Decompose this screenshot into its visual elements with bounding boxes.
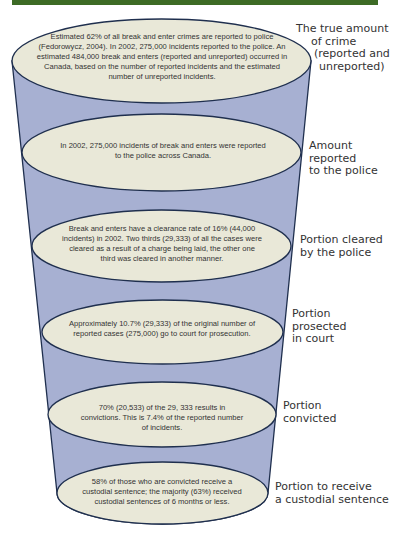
stage-3-label: Portion cleared by the police bbox=[300, 234, 383, 259]
stage-3-text: Break and enters have a clearance rate o… bbox=[62, 224, 262, 264]
stage-1-text: Estimated 62% of all break and enter cri… bbox=[34, 32, 290, 82]
stage-1-label: The true amount of crime (reported and u… bbox=[296, 23, 390, 73]
stage-4-label: Portion prosected in court bbox=[292, 308, 347, 346]
stage-6-text: 58% of those who are convicted receive a… bbox=[82, 477, 242, 507]
stage-6-label: Portion to receive a custodial sentence bbox=[275, 481, 389, 506]
stage-4-text: Approximately 10.7% (29,333) of the orig… bbox=[64, 319, 260, 339]
stage-5-text: 70% (20,533) of the 29, 333 results in c… bbox=[80, 403, 244, 433]
stage-2-text: In 2002, 275,000 incidents of break and … bbox=[58, 141, 268, 161]
stage-5-label: Portion convicted bbox=[283, 400, 336, 425]
stage-2-label: Amount reported to the police bbox=[309, 140, 378, 178]
